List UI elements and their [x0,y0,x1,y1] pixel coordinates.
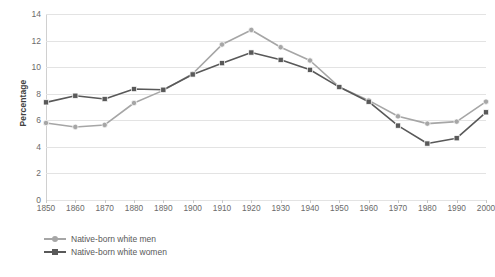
y-axis-tick-label: 10 [32,63,41,72]
data-point [454,136,459,141]
data-point [43,100,48,105]
x-axis-tick-mark [222,200,223,203]
data-point [278,57,283,62]
x-axis-tick-label: 1980 [418,204,436,212]
x-axis-tick-label: 2000 [477,204,495,212]
x-axis-tick-mark [163,200,164,203]
x-axis-tick-mark [310,200,311,203]
data-point [278,45,283,50]
x-axis-tick-mark [75,200,76,203]
data-point [307,58,312,63]
data-point [249,50,254,55]
series-line-women [46,53,486,144]
y-axis-tick-label: 8 [36,89,41,98]
y-axis-tick-label: 2 [36,169,41,178]
data-point [161,87,166,92]
data-point [219,42,224,47]
legend-label-men: Native-born white men [71,234,156,244]
data-point [190,72,195,77]
y-axis-tick-label: 12 [32,36,41,45]
x-axis-tick-label: 1860 [66,204,84,212]
x-axis-tick-label: 1880 [125,204,143,212]
x-axis-tick-label: 1890 [154,204,172,212]
legend-marker-women-icon [44,246,66,257]
data-point [102,122,107,127]
x-axis-tick-label: 1970 [389,204,407,212]
x-axis-tick-label: 1940 [301,204,319,212]
x-axis-tick-label: 1990 [447,204,465,212]
data-point [483,99,488,104]
x-axis-tick-label: 1900 [183,204,201,212]
y-axis-tick-label: 4 [36,143,41,152]
data-point [73,124,78,129]
x-axis-tick-mark [457,200,458,203]
data-point [131,86,136,91]
series-line-men [46,30,486,127]
data-point [43,120,48,125]
x-axis-tick-mark [193,200,194,203]
data-point [73,93,78,98]
data-point [425,141,430,146]
legend: Native-born white men Native-born white … [44,232,167,258]
x-axis-tick-label: 1910 [213,204,231,212]
y-axis-tick-label: 14 [32,10,41,19]
x-axis-tick-label: 1850 [37,204,55,212]
x-axis-tick-mark [251,200,252,203]
x-axis-tick-mark [486,200,487,203]
data-point [366,99,371,104]
gridline [46,200,486,201]
data-point [337,84,342,89]
x-axis-tick-label: 1960 [359,204,377,212]
data-point [102,96,107,101]
legend-item-women[interactable]: Native-born white women [44,245,167,258]
x-axis-tick-mark [427,200,428,203]
data-point [483,110,488,115]
x-axis-tick-mark [398,200,399,203]
series-layer [46,14,486,200]
data-point [131,100,136,105]
x-axis-tick-label: 1930 [271,204,289,212]
data-point [395,123,400,128]
data-point [307,67,312,72]
x-axis-tick-label: 1870 [95,204,113,212]
x-axis-tick-mark [339,200,340,203]
x-axis-tick-label: 1920 [242,204,260,212]
legend-label-women: Native-born white women [71,247,167,257]
y-axis-tick-label: 6 [36,116,41,125]
x-axis-tick-mark [105,200,106,203]
x-axis-tick-label: 1950 [330,204,348,212]
plot-area: 02468101214 [46,14,486,200]
legend-item-men[interactable]: Native-born white men [44,232,167,245]
x-axis-tick-mark [369,200,370,203]
x-axis-tick-mark [281,200,282,203]
x-axis-tick-mark [46,200,47,203]
data-point [425,121,430,126]
x-axis-tick-mark [134,200,135,203]
legend-marker-men-icon [44,233,66,244]
y-axis-title: Percentage [18,58,28,148]
data-point [219,61,224,66]
data-point [395,114,400,119]
data-point [454,119,459,124]
data-point [249,27,254,32]
